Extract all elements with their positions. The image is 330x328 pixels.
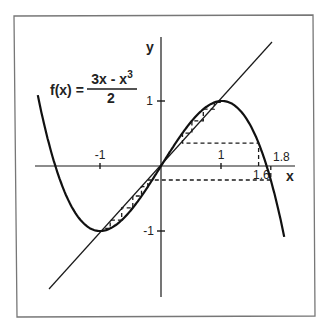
start-label-1-8: 1.8	[273, 150, 290, 164]
x-tick-label-1: 1	[218, 148, 225, 162]
x-tick-label-neg1: -1	[95, 148, 106, 162]
formula-denominator: 2	[107, 90, 115, 106]
formula-lhs: f(x) =	[50, 82, 84, 98]
cobweb-path-1-8	[102, 166, 270, 228]
y-axis-label: y	[146, 39, 154, 55]
formula-numerator: 3x - x3	[91, 69, 133, 87]
x-axis-label: x	[286, 168, 294, 184]
y-tick-label-neg1: -1	[143, 224, 154, 238]
y-tick-label-1: 1	[146, 94, 153, 108]
cobweb-diagram: -1 1 1 -1 y x 1.8 1.6 f(x) = 3x - x3 2	[0, 0, 330, 328]
formula: f(x) = 3x - x3 2	[50, 69, 137, 106]
